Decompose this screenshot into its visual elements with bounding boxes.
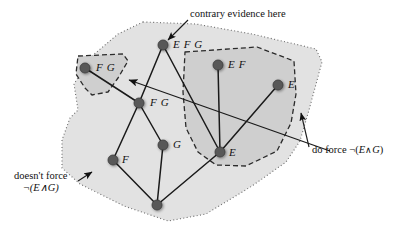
node-f-label: F	[122, 153, 129, 166]
annotation-do-force-text: do force ¬(E∧G)	[312, 144, 383, 156]
do-force-prefix: do force ¬(	[312, 144, 359, 155]
regions-layer	[62, 22, 322, 221]
annotation-contrary-evidence-text: contrary evidence here	[190, 8, 286, 20]
annotation-doesnt-force-text: doesn't force ¬(E∧G)	[14, 170, 68, 195]
node-e-right-label: E	[288, 78, 295, 91]
node-fg-upper-label: F G	[96, 61, 115, 74]
doesnt-force-line1: doesn't force	[14, 170, 68, 182]
node-bottom-empty[interactable]	[152, 200, 162, 210]
node-f[interactable]	[108, 155, 118, 165]
node-g[interactable]	[158, 140, 168, 150]
node-fg-upper[interactable]	[80, 63, 90, 73]
node-ef-label: E F	[228, 58, 246, 71]
do-force-suffix: )	[380, 144, 384, 155]
do-force-var-g: G	[372, 144, 380, 155]
node-e-lower-label: E	[229, 146, 236, 159]
node-ef[interactable]	[213, 60, 223, 70]
node-fg-central[interactable]	[134, 98, 144, 108]
node-e-right[interactable]	[273, 80, 283, 90]
diagram-canvas	[0, 0, 406, 232]
diagram-root: E F GF GE FEF GEGF contrary evidence her…	[0, 0, 406, 232]
node-e-lower[interactable]	[215, 147, 225, 157]
node-g-label: G	[173, 138, 182, 151]
node-fg-central-label: F G	[150, 96, 169, 109]
node-efg-label: E F G	[173, 38, 203, 51]
doesnt-force-line2: ¬(E∧G)	[14, 182, 68, 194]
node-efg[interactable]	[158, 40, 168, 50]
